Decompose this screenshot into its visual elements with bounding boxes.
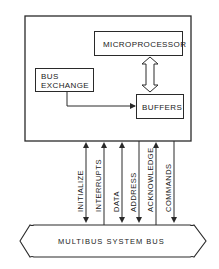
bus-exchange-block: BUS EXCHANGE: [35, 68, 94, 92]
microprocessor-block: MICROPROCESSOR: [94, 31, 183, 56]
bus-exchange-label-line1: BUS: [41, 72, 59, 81]
microprocessor-label: MICROPROCESSOR: [103, 40, 186, 49]
signal-label-address: ADDRESS: [130, 172, 138, 212]
buffers-label: BUFFERS: [142, 103, 182, 112]
signal-label-acknowledge: ACKNOWLEDGE: [147, 147, 155, 212]
multibus-label: MULTIBUS SYSTEM BUS: [58, 237, 165, 246]
bus-exchange-label-line2: EXCHANGE: [41, 81, 89, 90]
signal-label-initialize: INITIALIZE: [77, 170, 85, 212]
signal-label-commands: COMMANDS: [165, 163, 173, 212]
signal-label-data: DATA: [113, 191, 121, 212]
exchange-to-buffers-arrow: [67, 91, 135, 106]
buffers-block: BUFFERS: [136, 94, 184, 119]
signal-label-interrupts: INTERRUPTS: [95, 159, 103, 212]
microprocessor-buffers-double-arrow: [142, 57, 158, 92]
